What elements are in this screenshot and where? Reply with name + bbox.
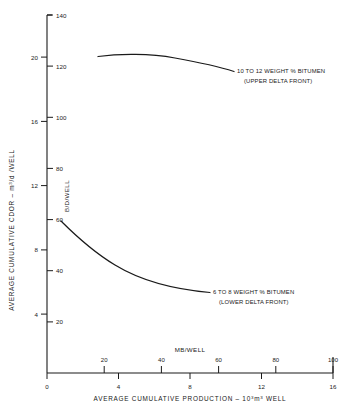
y-tick-right-label-140: 140 [56,12,67,19]
y-axis-title-left-group: AVERAGE CUMULATIVE CDOR – m3/d /WELL [8,149,15,311]
cdor-vs-production-chart: 140 120 100 80 60 40 20 20 16 12 8 4 [0,0,348,417]
x-axis-title-bottom-main: AVERAGE CUMULATIVE PRODUCTION – 10 [94,395,251,402]
y-tick-right-label-100: 100 [56,114,67,121]
x-tick-top-label-60: 60 [215,357,222,363]
x-axis-title-bottom-tail: WELL [263,395,286,402]
x-tick-top-label-80: 80 [272,357,279,363]
y-tick-left-label-16: 16 [31,118,38,125]
y-axis-title-left-main: AVERAGE CUMULATIVE CDOR – m [8,185,15,311]
y-tick-right-label-80: 80 [56,165,63,172]
x-axis-title-top: MB/WELL [175,346,206,353]
y-tick-left-label-8: 8 [35,246,39,253]
y-tick-left-label-12: 12 [31,182,38,189]
x-tick-bottom-label-16: 16 [330,383,337,390]
x-tick-top-label-20: 20 [101,357,108,363]
y-tick-left-label-20: 20 [31,54,38,61]
y-axis-title-right: B/D/WELL [63,180,70,212]
x-tick-bottom-label-0: 0 [45,383,49,390]
chart-background [0,0,348,417]
y-tick-right-label-120: 120 [56,63,67,70]
y-tick-left-label-4: 4 [35,311,39,318]
annotation-lower-line1: 6 TO 8 WEIGHT % BITUMEN [213,289,294,295]
y-tick-right-label-40: 40 [56,267,63,274]
y-axis-title-left: AVERAGE CUMULATIVE CDOR – m3/d /WELL [8,149,15,311]
x-axis-title-bottom: AVERAGE CUMULATIVE PRODUCTION – 103m3 WE… [94,395,287,402]
x-tick-bottom-label-4: 4 [117,383,121,390]
chart-canvas: 140 120 100 80 60 40 20 20 16 12 8 4 [0,0,348,417]
y-tick-right-label-20: 20 [56,318,63,325]
annotation-upper-line2: (UPPER DELTA FRONT) [244,78,312,84]
x-tick-bottom-label-8: 8 [188,383,192,390]
x-tick-top-label-100: 100 [328,357,339,363]
annotation-upper-line1: 10 TO 12 WEIGHT % BITUMEN [237,68,325,74]
annotation-lower-line2: (LOWER DELTA FRONT) [219,299,289,305]
y-axis-title-left-tail: /d /WELL [8,149,15,181]
x-tick-bottom-label-12: 12 [258,383,265,390]
x-tick-top-label-40: 40 [158,357,165,363]
y-axis-title-right-group: B/D/WELL [63,180,70,212]
